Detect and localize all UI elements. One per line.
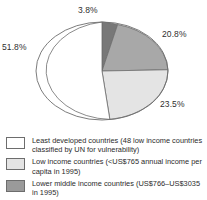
legend-item-low-income[interactable]: Low income countries (<US$765 annual inc… (0, 157, 207, 175)
legend-item-lower-middle-income[interactable]: Lower middle income countries (US$766–US… (0, 179, 207, 197)
legend-swatch-low-income (6, 158, 25, 170)
pie-label-20-8: 20.8% (162, 30, 187, 39)
legend-swatch-lower-middle-income (6, 180, 25, 192)
legend-label-lower-middle-income: Lower middle income countries (US$766–US… (32, 179, 204, 197)
legend-label-low-income: Low income countries (<US$765 annual inc… (32, 157, 204, 175)
legend-label-least-developed: Least developed countries (48 low income… (32, 136, 204, 154)
pie-slice-23-5[interactable] (102, 70, 168, 120)
pie-chart-figure: 3.8% 20.8% 23.5% 51.8% Least developed c… (0, 0, 207, 200)
legend-swatch-least-developed (6, 137, 25, 149)
chart-legend: Least developed countries (48 low income… (0, 136, 207, 200)
pie-label-3-8: 3.8% (78, 6, 98, 15)
pie-svg (0, 0, 207, 133)
pie-label-23-5: 23.5% (160, 100, 185, 109)
pie-plot-area: 3.8% 20.8% 23.5% 51.8% (0, 0, 207, 133)
pie-label-51-8: 51.8% (2, 43, 27, 52)
legend-item-least-developed[interactable]: Least developed countries (48 low income… (0, 136, 207, 154)
